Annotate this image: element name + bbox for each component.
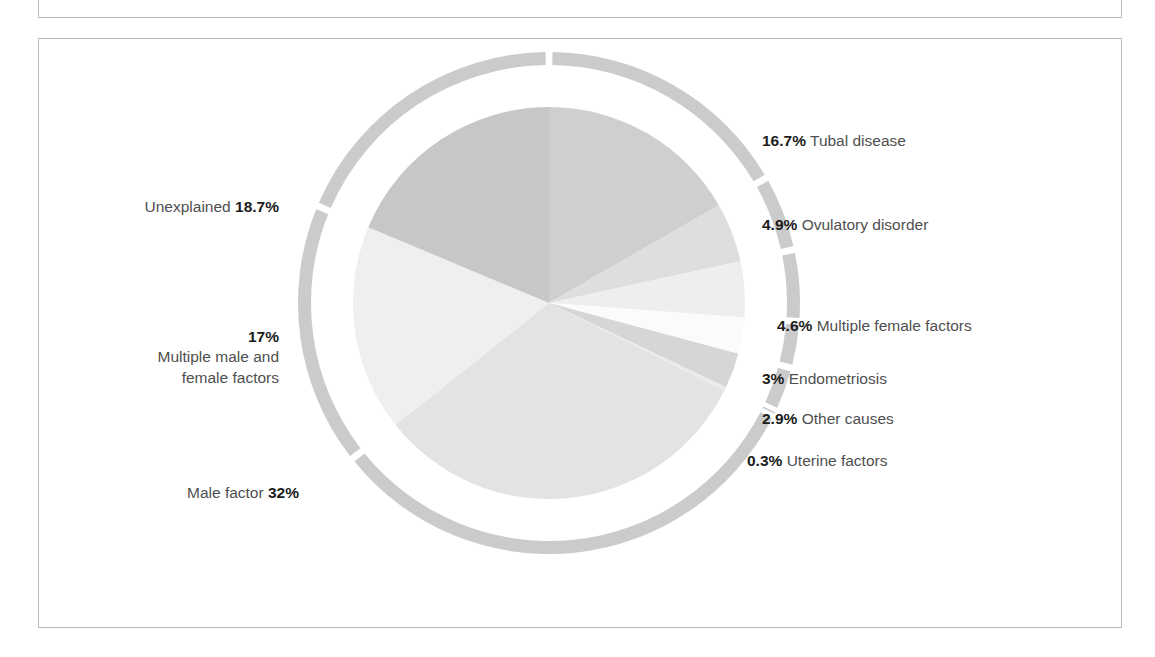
ring-segment xyxy=(782,253,800,318)
label-multiple-male-and-female-factors: 17% Multiple male and female factors xyxy=(29,327,279,388)
text-tubal-disease: Tubal disease xyxy=(810,132,906,149)
value-multiple-female-factors: 4.6% xyxy=(777,317,812,334)
value-male-factor: 32% xyxy=(268,484,299,501)
label-multiple-female-factors: 4.6% Multiple female factors xyxy=(777,316,972,336)
title-panel: FACTORS RESPONSIBLE FOR INFERTILITY xyxy=(38,0,1122,18)
text-uterine-factors: Uterine factors xyxy=(787,452,888,469)
pie-chart-svg xyxy=(294,48,804,558)
label-tubal-disease: 16.7% Tubal disease xyxy=(762,131,906,151)
text-unexplained: Unexplained xyxy=(145,198,231,215)
text-multiple-male-and-female-factors-line2: female factors xyxy=(29,368,279,388)
value-ovulatory-disorder: 4.9% xyxy=(762,216,797,233)
figure-frame: 16.7% Tubal disease 4.9% Ovulatory disor… xyxy=(38,38,1122,628)
text-endometriosis: Endometriosis xyxy=(789,370,887,387)
value-other-causes: 2.9% xyxy=(762,410,797,427)
value-tubal-disease: 16.7% xyxy=(762,132,806,149)
text-ovulatory-disorder: Ovulatory disorder xyxy=(802,216,929,233)
value-endometriosis: 3% xyxy=(762,370,784,387)
ring-segment xyxy=(298,209,360,456)
pie-slices xyxy=(353,107,745,499)
label-endometriosis: 3% Endometriosis xyxy=(762,369,887,389)
label-ovulatory-disorder: 4.9% Ovulatory disorder xyxy=(762,215,928,235)
value-uterine-factors: 0.3% xyxy=(747,452,782,469)
value-multiple-male-and-female-factors: 17% xyxy=(29,327,279,347)
text-other-causes: Other causes xyxy=(802,410,894,427)
label-other-causes: 2.9% Other causes xyxy=(762,409,894,429)
text-multiple-male-and-female-factors-line1: Multiple male and xyxy=(29,347,279,367)
value-unexplained: 18.7% xyxy=(235,198,279,215)
label-male-factor: Male factor 32% xyxy=(29,483,299,503)
text-multiple-female-factors: Multiple female factors xyxy=(817,317,972,334)
label-uterine-factors: 0.3% Uterine factors xyxy=(747,451,887,471)
label-unexplained: Unexplained 18.7% xyxy=(29,197,279,217)
pie-chart: 16.7% Tubal disease 4.9% Ovulatory disor… xyxy=(39,39,1123,629)
text-male-factor: Male factor xyxy=(187,484,264,501)
